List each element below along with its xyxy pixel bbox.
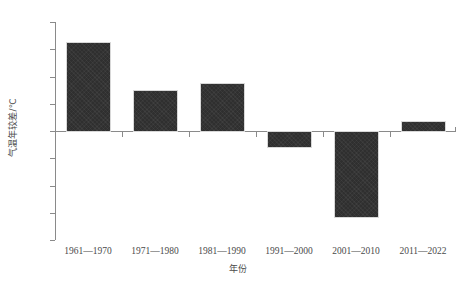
- bar-2011-2022: [401, 121, 446, 132]
- x-axis-tick: [122, 132, 123, 137]
- bar-1961-1970: [66, 42, 111, 132]
- x-axis-tick: [390, 132, 391, 137]
- bar-1971-1980: [133, 90, 178, 132]
- y-axis-tick: [50, 240, 55, 241]
- x-axis-tick: [256, 132, 257, 137]
- bar-1991-2000: [267, 131, 312, 148]
- x-axis-end-tick: [455, 127, 456, 132]
- y-axis-title: 气温年较差/℃: [9, 83, 18, 173]
- x-axis-tick: [323, 132, 324, 137]
- bar-2001-2010: [334, 131, 379, 218]
- y-axis-tick: [50, 186, 55, 187]
- x-axis-label-2011-2022: 2011—2022: [378, 247, 468, 257]
- y-axis-tick: [50, 22, 55, 23]
- y-axis-tick: [50, 213, 55, 214]
- y-axis-tick: [50, 104, 55, 105]
- y-axis-tick: [50, 158, 55, 159]
- y-axis-tick: [50, 49, 55, 50]
- bar-chart: 0.8 0.6 0.4 0.2 0.0 -0.2 -0.4 -0.6 -0.8 …: [0, 0, 475, 289]
- bar-1981-1990: [200, 83, 245, 132]
- x-axis-title: 年份: [0, 265, 475, 274]
- y-axis-tick: [50, 77, 55, 78]
- x-axis-tick: [189, 132, 190, 137]
